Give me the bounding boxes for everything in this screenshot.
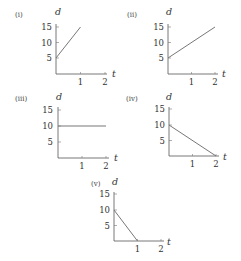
- x-tick-2: 2: [103, 161, 108, 171]
- panel-label: (v): [91, 180, 101, 188]
- charts-canvas: (i) d t 15 10 5 1 2 (ii) d t 15 10 5 1 2…: [0, 0, 241, 261]
- x-axis-label: t: [167, 236, 171, 247]
- data-line: [168, 27, 215, 58]
- y-tick-15: 15: [41, 22, 52, 32]
- data-line: [169, 125, 216, 156]
- x-tick-1: 1: [189, 77, 194, 87]
- x-axis-label: t: [112, 68, 116, 79]
- chart-i: (i) d t 15 10 5 1 2: [15, 6, 116, 87]
- y-tick-10: 10: [154, 120, 165, 130]
- x-tick-2: 2: [213, 159, 218, 169]
- y-tick-5: 5: [47, 53, 52, 63]
- y-tick-10: 10: [42, 121, 53, 131]
- x-axis-label: t: [222, 68, 226, 79]
- y-tick-15: 15: [154, 104, 165, 114]
- panel-label: (iv): [126, 95, 138, 103]
- y-tick-10: 10: [153, 38, 164, 48]
- y-axis-label: d: [55, 6, 61, 17]
- y-tick-10: 10: [41, 38, 52, 48]
- x-tick-1: 1: [190, 159, 195, 169]
- chart-ii: (ii) d t 15 10 5 1 2: [127, 6, 226, 87]
- x-axis-label: t: [223, 151, 227, 162]
- chart-iii: (iii) d t 15 10 5 1 2: [15, 91, 118, 171]
- panel-label: (iii): [15, 95, 27, 103]
- y-tick-15: 15: [153, 22, 164, 32]
- x-tick-2: 2: [158, 244, 163, 254]
- y-tick-15: 15: [99, 189, 110, 199]
- y-tick-15: 15: [42, 105, 53, 115]
- x-tick-2: 2: [102, 77, 107, 87]
- y-tick-5: 5: [159, 53, 164, 63]
- panel-label: (i): [15, 11, 23, 19]
- y-tick-5: 5: [160, 136, 165, 146]
- x-tick-2: 2: [212, 77, 217, 87]
- x-axis-label: t: [114, 152, 118, 163]
- chart-v: (v) d t 15 10 5 1 2: [91, 176, 171, 254]
- y-tick-5: 5: [48, 137, 53, 147]
- x-tick-1: 1: [79, 161, 84, 171]
- data-line: [114, 210, 138, 241]
- chart-iv: (iv) d t 15 10 5 1 2: [126, 91, 227, 169]
- x-tick-1: 1: [135, 244, 140, 254]
- y-tick-10: 10: [99, 205, 110, 215]
- y-axis-label: d: [112, 176, 118, 187]
- data-line: [56, 27, 81, 58]
- y-axis-label: d: [56, 91, 62, 102]
- panel-label: (ii): [127, 11, 137, 19]
- y-tick-5: 5: [105, 221, 110, 231]
- y-axis-label: d: [166, 6, 172, 17]
- x-tick-1: 1: [78, 77, 83, 87]
- y-axis-label: d: [166, 91, 172, 102]
